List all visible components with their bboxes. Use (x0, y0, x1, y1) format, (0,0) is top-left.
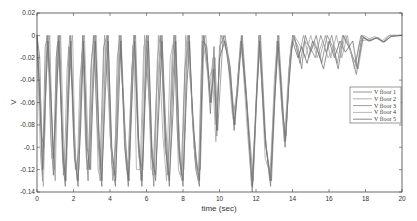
line-chart: 02468101214161820 0.020-0.02-0.04-0.06-0… (0, 0, 417, 221)
y-tick-label: -0.12 (20, 166, 35, 173)
x-tick-label: 8 (181, 195, 185, 202)
x-tick-label: 0 (35, 195, 39, 202)
x-tick-label: 12 (252, 195, 260, 202)
chart-container: 02468101214161820 0.020-0.02-0.04-0.06-0… (0, 0, 417, 221)
x-axis-label: time (sec) (201, 204, 236, 213)
y-axis-label: V (9, 99, 18, 105)
x-tick-label: 16 (325, 195, 333, 202)
y-tick-label: 0.02 (22, 9, 35, 16)
x-tick-label: 20 (398, 195, 406, 202)
legend-label: V floor 2 (374, 96, 396, 102)
x-tick-label: 6 (145, 195, 149, 202)
y-tick-label: -0.14 (20, 188, 35, 195)
legend-label: V floor 4 (374, 109, 396, 115)
y-tick-label: -0.02 (20, 54, 35, 61)
y-tick-label: 0 (31, 32, 35, 39)
y-tick-label: -0.04 (20, 76, 35, 83)
y-tick-label: -0.06 (20, 99, 35, 106)
y-tick-label: -0.08 (20, 121, 35, 128)
legend: V floor 1V floor 2V floor 3V floor 4V fl… (350, 87, 401, 123)
x-tick-label: 4 (108, 195, 112, 202)
y-tick-label: -0.1 (24, 144, 36, 151)
series-layer (37, 35, 402, 192)
x-tick-label: 18 (362, 195, 370, 202)
legend-label: V floor 3 (374, 103, 396, 109)
x-tick-label: 10 (216, 195, 224, 202)
legend-label: V floor 5 (374, 116, 396, 122)
legend-label: V floor 1 (374, 89, 396, 95)
x-tick-label: 2 (72, 195, 76, 202)
x-tick-label: 14 (289, 195, 297, 202)
